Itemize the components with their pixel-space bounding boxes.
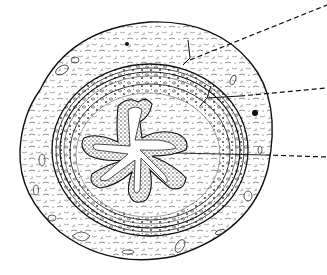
ureter-cross-section-figure (0, 0, 327, 275)
